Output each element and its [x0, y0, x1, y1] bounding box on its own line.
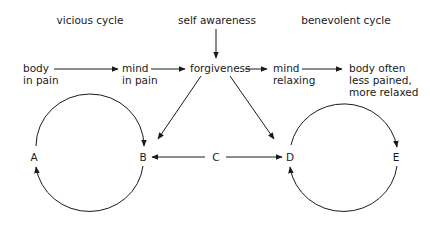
label-body-in-pain-2: in pain: [23, 74, 59, 86]
node-B: B: [139, 151, 146, 163]
heading-benevolent-cycle: benevolent cycle: [301, 14, 391, 26]
label-mind-relaxing-2: relaxing: [273, 74, 315, 86]
arrow-forgiveness-to-D: [230, 76, 274, 139]
node-A: A: [30, 151, 38, 163]
heading-self-awareness: self awareness: [178, 14, 256, 26]
label-mind-in-pain-1: mind: [122, 62, 148, 74]
node-C: C: [212, 151, 219, 163]
label-mind-relaxing-1: mind: [273, 62, 299, 74]
forgiveness-cycle-diagram: vicious cycle self awareness benevolent …: [0, 0, 430, 225]
vicious-cycle-arc-bottom: [36, 166, 143, 211]
label-body-in-pain-1: body: [23, 62, 49, 74]
label-body-relaxed-2: less pained,: [349, 74, 412, 86]
label-forgiveness: forgiveness: [190, 62, 251, 74]
label-mind-in-pain-2: in pain: [122, 74, 158, 86]
label-body-relaxed-3: more relaxed: [349, 86, 418, 98]
vicious-cycle-arc-top: [36, 94, 144, 146]
node-E: E: [393, 151, 400, 163]
arrow-forgiveness-to-B: [158, 76, 201, 139]
benevolent-cycle-arc-bottom: [290, 166, 397, 211]
label-body-relaxed-1: body often: [349, 62, 405, 74]
heading-vicious-cycle: vicious cycle: [57, 14, 124, 26]
node-D: D: [286, 151, 294, 163]
benevolent-cycle-arc-top: [291, 104, 397, 147]
